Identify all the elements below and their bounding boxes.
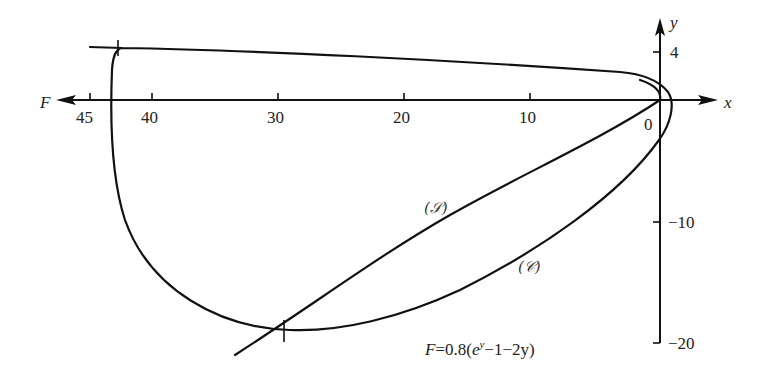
- eq-lhs: F: [424, 340, 436, 359]
- svg-text:F=0.8(ey−1−2y): F=0.8(ey−1−2y): [424, 338, 535, 359]
- axis-label-x: x: [723, 93, 732, 112]
- tick-label-30: 30: [267, 108, 284, 127]
- tick-label-40: 40: [141, 108, 158, 127]
- axis-label-F: F: [39, 93, 51, 112]
- label-S: (𝒮): [424, 199, 448, 217]
- phase-diagram: F x 45 40 30 20 10 0 y 4 −10 −20 (𝒮) (𝒞)…: [0, 0, 771, 379]
- origin-label: 0: [644, 115, 653, 134]
- tick-label-10: 10: [519, 108, 536, 127]
- horizontal-axis: F x 45 40 30 20 10 0: [39, 93, 732, 134]
- tick-label-minus10: −10: [668, 213, 695, 232]
- tick-label-minus20: −20: [668, 334, 695, 353]
- tick-label-4: 4: [670, 43, 679, 62]
- label-C: (𝒞): [518, 258, 541, 276]
- curve-S: [235, 100, 660, 355]
- axis-label-y: y: [668, 13, 678, 32]
- eq-rest: −1−2y): [484, 340, 534, 359]
- eq-eq: =0.8(: [435, 340, 472, 359]
- vertical-axis: y 4 −10 −20: [653, 13, 695, 353]
- tick-label-20: 20: [393, 108, 410, 127]
- equation: F=0.8(ey−1−2y): [424, 338, 535, 359]
- tick-label-45: 45: [76, 108, 93, 127]
- curve-C: [90, 47, 672, 330]
